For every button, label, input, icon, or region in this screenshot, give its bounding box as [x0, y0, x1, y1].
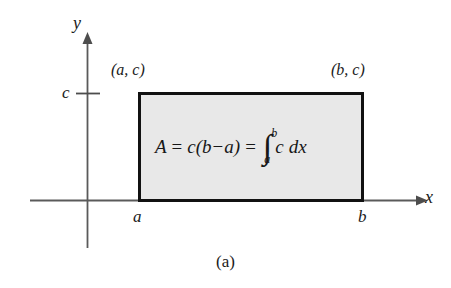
integral-upper-limit: b	[271, 127, 277, 139]
y-tick-label-c: c	[62, 84, 70, 101]
integral-expression: ∫ b a	[263, 131, 274, 161]
formula-equals-1: =	[167, 137, 188, 156]
figure-container: y x c a b (a, c) (b, c) A = c ( b − a ) …	[0, 0, 451, 288]
x-axis-label: x	[425, 188, 433, 206]
formula-height-symbol: c	[187, 137, 195, 156]
formula-area-symbol: A	[155, 137, 167, 156]
formula-equals-2: =	[240, 137, 261, 156]
y-axis-label: y	[73, 14, 81, 32]
figure-caption: (a)	[0, 252, 451, 272]
corner-label-top-left: (a, c)	[111, 62, 145, 78]
corner-label-top-right: (b, c)	[331, 62, 365, 78]
formula-upper-limit: b	[202, 137, 212, 156]
x-tick-label-a: a	[133, 208, 142, 225]
integral-lower-limit: a	[264, 153, 270, 165]
area-formula: A = c ( b − a ) = ∫ b a c dx	[155, 131, 307, 161]
x-tick-label-b: b	[358, 208, 367, 225]
formula-lower-limit: a	[224, 137, 234, 156]
formula-minus-sign: −	[212, 137, 225, 156]
formula-differential: dx	[289, 137, 307, 156]
y-axis-arrowhead	[83, 32, 93, 44]
